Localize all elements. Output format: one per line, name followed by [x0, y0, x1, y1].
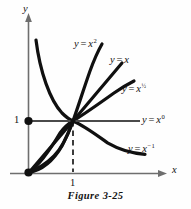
- intersection-point-1-1: [70, 118, 75, 123]
- x-axis-arrowhead: [158, 170, 167, 177]
- label-equals: =: [79, 38, 88, 49]
- point-dot-y-one: [24, 117, 32, 125]
- label-equals: =: [133, 143, 142, 154]
- figure-caption: Figure 3-25: [0, 190, 191, 201]
- point-dot-origin: [24, 168, 32, 176]
- x-tick-label-1: 1: [70, 178, 75, 189]
- label-curve-x-linear: y=x: [110, 55, 129, 66]
- y-axis-label: y: [23, 4, 28, 15]
- label-exponent: 0: [161, 113, 165, 120]
- label-curve-x-inverse: y=x−1: [128, 144, 155, 155]
- label-curve-x-zero: y=x0: [142, 115, 165, 126]
- label-equals: =: [127, 83, 136, 94]
- label-exponent: 2: [93, 37, 97, 44]
- power-functions-plot: [0, 0, 191, 209]
- label-curve-x-squared: y=x2: [74, 39, 97, 50]
- x-axis-label: x: [172, 165, 177, 176]
- label-curve-x-half: y=x½: [122, 84, 146, 95]
- figure-container: y x 1 1 y=x2 y=x y=x½ y=x0 y=x−1 Figure …: [0, 0, 191, 209]
- label-exponent: −1: [147, 142, 155, 149]
- label-equals: =: [115, 54, 124, 65]
- label-exponent: ½: [141, 83, 146, 89]
- y-tick-label-1: 1: [14, 115, 19, 126]
- label-equals: =: [147, 114, 156, 125]
